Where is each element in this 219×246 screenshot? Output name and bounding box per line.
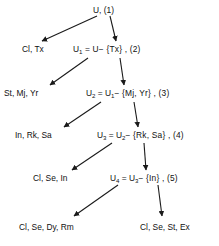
arrow-left-2	[50, 58, 88, 85]
node-terminal-text: Cl, Se, St, Ex	[140, 222, 190, 232]
node-root-suffix2-4: − {Rk, Sa} , (4)	[125, 130, 183, 140]
node-root-sub2-4: 2	[122, 134, 125, 141]
node-leaf-level-5: Cl, Se, Dy, Rm	[19, 223, 74, 231]
tree-diagram: U, (1) Cl, Tx U1 = U− {Tx} , (2) St, Mj,…	[0, 0, 219, 246]
node-root-level-2: U1 = U− {Tx} , (2)	[73, 45, 141, 53]
node-root-suffix2-5: − {In} , (5)	[138, 173, 177, 183]
node-root-sub-2: 1	[79, 48, 82, 55]
arrow-layer	[0, 0, 219, 246]
node-terminal: Cl, Se, St, Ex	[140, 223, 190, 231]
node-root-level-3: U2 = U1− {Mj, Yr} , (3)	[86, 89, 169, 97]
node-leaf-text-4: Cl, Se, In	[33, 173, 67, 183]
node-root-level-5: U4 = U3− {In} , (5)	[110, 174, 178, 182]
node-leaf-level-1: Cl, Tx	[22, 45, 44, 53]
arrow-down-4	[144, 143, 146, 170]
arrow-left-3	[64, 102, 101, 127]
node-root-level-1: U, (1)	[93, 6, 114, 14]
node-leaf-level-2: St, Mj, Yr	[4, 89, 38, 97]
node-root-text-1: U, (1)	[93, 5, 114, 15]
node-root-sub2-3: 1	[111, 92, 114, 99]
node-root-suffix2-3: − {Mj, Yr} , (3)	[114, 88, 169, 98]
node-root-sub-5: 4	[116, 177, 119, 184]
node-leaf-text-2: St, Mj, Yr	[4, 88, 38, 98]
node-leaf-level-4: Cl, Se, In	[33, 174, 67, 182]
arrow-down-5	[158, 185, 162, 216]
node-root-sub-3: 2	[92, 92, 95, 99]
node-root-suffix-4: = U	[106, 130, 122, 140]
arrow-down-3	[134, 102, 138, 127]
node-root-suffix-5: = U	[119, 173, 135, 183]
arrow-left-5	[74, 185, 118, 216]
node-leaf-text-5: Cl, Se, Dy, Rm	[19, 222, 74, 232]
node-root-level-4: U3 = U2− {Rk, Sa} , (4)	[97, 131, 184, 139]
node-leaf-text-1: Cl, Tx	[22, 44, 44, 54]
node-root-sub2-5: 3	[135, 177, 138, 184]
node-root-sub-4: 3	[103, 134, 106, 141]
arrow-left-1	[42, 16, 97, 41]
arrow-left-4	[72, 143, 112, 170]
node-leaf-text-3: In, Rk, Sa	[15, 130, 52, 140]
node-root-suffix-3: = U	[95, 88, 111, 98]
node-leaf-level-3: In, Rk, Sa	[15, 131, 52, 139]
arrow-down-2	[120, 58, 124, 85]
arrow-down-1	[110, 16, 116, 41]
node-root-suffix-2: = U− {Tx} , (2)	[82, 44, 140, 54]
